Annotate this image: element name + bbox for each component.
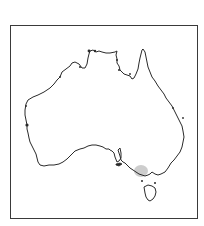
kangaroo-island [116, 163, 122, 166]
tasmania-outline [144, 185, 156, 201]
island-marker [88, 50, 91, 53]
australia-map [0, 0, 204, 226]
island-marker [59, 76, 61, 78]
island-marker [94, 50, 96, 52]
island-marker [172, 107, 174, 109]
island-marker [182, 117, 184, 119]
island-marker [79, 66, 81, 68]
island-marker [154, 182, 156, 184]
mainland-outline [25, 49, 184, 176]
island-marker [141, 180, 143, 182]
island-marker [25, 105, 27, 107]
island-marker [129, 73, 131, 75]
island-marker [116, 59, 118, 61]
island-marker [25, 123, 28, 126]
island-marker [118, 69, 120, 71]
